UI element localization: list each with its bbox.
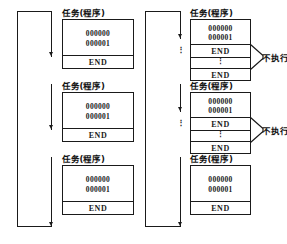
task-label: 任务(程序) — [190, 81, 251, 92]
task-end-row: END — [63, 128, 133, 141]
task-second-end-row: END — [191, 68, 250, 81]
task-group-left-2: 任务(程序) 000000 000001 END — [62, 81, 134, 142]
right-flow-inner-vertical-3 — [180, 157, 181, 227]
task-code-area: 000000 000001 — [63, 166, 133, 201]
right-flow-outer-vertical — [145, 11, 146, 226]
task-end-row: END — [63, 201, 133, 214]
right-flow-bottom-segment — [145, 226, 181, 227]
skipped-annotation-2: 不执行 — [262, 124, 287, 136]
code-line: 000000 — [86, 175, 110, 185]
code-line: 000001 — [208, 33, 232, 43]
code-line: 000001 — [86, 39, 110, 49]
task-box[interactable]: 000000 000001 END — [62, 165, 134, 215]
code-line: 000001 — [86, 112, 110, 122]
right-flow-arrowhead-2 — [178, 107, 182, 111]
task-label: 任务(程序) — [190, 154, 251, 165]
task-box[interactable]: 000000 000001 END ⋮ END — [190, 19, 251, 81]
diagram-canvas: 任务(程序) 000000 000001 END 任务(程序) 000000 0… — [0, 0, 287, 244]
right-flow-arrowhead-3 — [178, 222, 182, 226]
left-flow-arrowhead-3 — [49, 222, 53, 226]
task-group-left-3: 任务(程序) 000000 000001 END — [62, 154, 134, 215]
task-group-right-3: 任务(程序) 000000 000001 END — [190, 154, 251, 215]
task-label: 任务(程序) — [62, 154, 134, 165]
vertical-ellipsis-icon: ⋮ — [217, 60, 224, 63]
left-flow-arrowhead-1 — [49, 52, 53, 56]
task-skipped-dots-row: ⋮ — [191, 130, 250, 141]
task-code-area: 000000 000001 — [63, 93, 133, 128]
code-line: 000000 — [86, 102, 110, 112]
task-group-right-1: 任务(程序) 000000 000001 END ⋮ END — [190, 8, 251, 81]
left-flow-inner-vertical-3 — [51, 157, 52, 227]
task-second-end-row: END — [191, 141, 250, 154]
task-end-row: END — [191, 201, 250, 214]
task-box[interactable]: 000000 000001 END — [62, 92, 134, 142]
task-label: 任务(程序) — [62, 8, 134, 19]
task-end-row: END — [191, 117, 250, 130]
task-box[interactable]: 000000 000001 END — [62, 19, 134, 69]
task-box[interactable]: 000000 000001 END ⋮ END — [190, 92, 251, 154]
task-end-row: END — [191, 44, 250, 57]
right-flow-arrowhead-1 — [178, 34, 182, 38]
task-code-area: 000000 000001 — [63, 20, 133, 55]
right-flow-ellipsis-2: ⋮ — [177, 121, 183, 125]
task-group-left-1: 任务(程序) 000000 000001 END — [62, 8, 134, 69]
task-code-area: 000000 000001 — [191, 20, 250, 44]
task-end-row: END — [63, 55, 133, 68]
left-flow-inner-vertical-2 — [51, 84, 52, 130]
left-flow-outer-vertical — [17, 11, 18, 226]
code-line: 000001 — [208, 106, 232, 116]
left-flow-inner-vertical-1 — [51, 11, 52, 57]
code-line: 000000 — [208, 24, 232, 34]
code-line: 000000 — [208, 175, 232, 185]
task-skipped-dots-row: ⋮ — [191, 57, 250, 68]
task-label: 任务(程序) — [190, 8, 251, 19]
task-code-area: 000000 000001 — [191, 166, 250, 201]
vertical-ellipsis-icon: ⋮ — [217, 133, 224, 136]
task-code-area: 000000 000001 — [191, 93, 250, 117]
right-flow-top-segment — [145, 11, 181, 12]
right-flow-ellipsis-1: ⋮ — [177, 48, 183, 52]
code-line: 000000 — [86, 29, 110, 39]
task-label: 任务(程序) — [62, 81, 134, 92]
left-flow-arrowhead-2 — [49, 125, 53, 129]
code-line: 000001 — [208, 185, 232, 195]
code-line: 000001 — [86, 185, 110, 195]
code-line: 000000 — [208, 97, 232, 107]
left-flow-top-segment — [17, 11, 52, 12]
task-group-right-2: 任务(程序) 000000 000001 END ⋮ END — [190, 81, 251, 154]
skipped-annotation-1: 不执行 — [262, 51, 287, 63]
left-flow-bottom-segment — [17, 226, 52, 227]
task-box[interactable]: 000000 000001 END — [190, 165, 251, 215]
